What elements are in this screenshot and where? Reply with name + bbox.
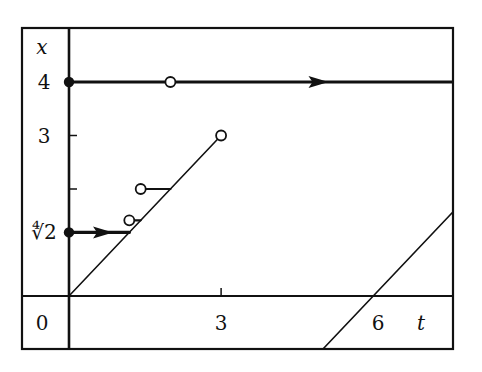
filled-point-0 — [64, 77, 74, 87]
trajectory-diagram: x t 0 3643∜2 — [0, 0, 482, 372]
x-axis-label: x — [36, 35, 47, 59]
filled-point-1 — [64, 227, 74, 237]
open-point-1 — [216, 131, 226, 141]
x-tick-label-1_1892: ∜2 — [31, 220, 56, 244]
open-point-3 — [124, 215, 134, 225]
x-tick-label-4: 4 — [38, 70, 51, 94]
t-axis-label: t — [417, 311, 426, 335]
trajectory-diagonal-shifted — [323, 210, 455, 349]
origin-label: 0 — [36, 311, 49, 335]
frame-border — [22, 28, 453, 349]
trajectory-diagonal-from-origin — [69, 136, 221, 297]
x-tick-label-3: 3 — [38, 124, 51, 148]
open-point-2 — [136, 184, 146, 194]
t-tick-label-3: 3 — [215, 311, 228, 335]
open-point-0 — [165, 77, 175, 87]
t-tick-label-6: 6 — [372, 311, 385, 335]
